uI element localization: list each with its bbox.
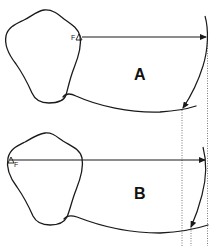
panel-a-blob-outline xyxy=(6,10,81,103)
panel-a-label: A xyxy=(134,66,146,83)
panel-a-arc-arrow xyxy=(183,16,207,108)
diagram-canvas: F A F B xyxy=(0,0,215,246)
panel-b-point-label: F xyxy=(14,161,18,168)
panel-a: F A xyxy=(6,10,208,112)
panel-b-label: B xyxy=(134,185,146,202)
panel-a-bottom-curve xyxy=(63,94,196,112)
panel-b-arc-arrow xyxy=(191,147,206,227)
dotted-reference-lines xyxy=(182,38,208,246)
panel-b-bottom-curve xyxy=(64,216,208,233)
panel-b: F B xyxy=(7,133,208,233)
panel-a-f-triangle-icon xyxy=(76,34,82,40)
panel-a-point-label: F xyxy=(71,34,75,41)
panel-b-blob-outline xyxy=(7,133,82,225)
